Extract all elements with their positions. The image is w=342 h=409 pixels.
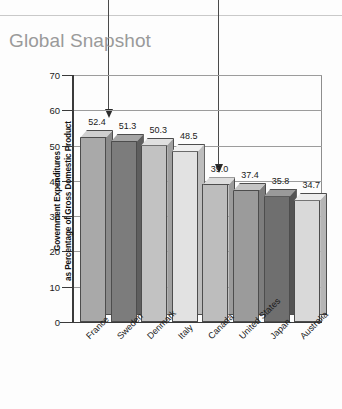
header-divider-line [0, 15, 342, 16]
bar-denmark[interactable] [141, 145, 167, 322]
bar-canada[interactable] [202, 184, 228, 322]
bar-face [294, 200, 320, 322]
plot-area [72, 75, 322, 322]
bar-france[interactable] [80, 137, 106, 322]
bar-united-states[interactable] [233, 190, 259, 322]
value-label-italy: 48.5 [180, 131, 198, 141]
category-label-italy: Italy [176, 322, 195, 341]
y-axis-title-line-2: as Percentage of Gross Domestic Product [63, 86, 74, 316]
y-axis-title-line-1: Government Expenditures [52, 86, 63, 316]
y-tick-0 [62, 322, 72, 323]
bar-face [80, 137, 106, 322]
bar-face [141, 145, 167, 322]
gridline-70 [72, 75, 322, 76]
value-label-japan: 35.8 [272, 176, 290, 186]
value-label-sweden: 51.3 [119, 121, 137, 131]
bar-side [320, 193, 327, 315]
value-label-canada: 39.0 [211, 164, 229, 174]
y-tick-label-wrap: 0 [38, 322, 60, 323]
bar-australia[interactable] [294, 200, 320, 322]
bar-italy[interactable] [172, 151, 198, 322]
bar-face [202, 184, 228, 322]
value-label-australia: 34.7 [302, 180, 320, 190]
bar-face [111, 141, 137, 322]
bar-face [172, 151, 198, 322]
bar-sweden[interactable] [111, 141, 137, 322]
gridline-60 [72, 110, 322, 111]
y-axis-title: Government Expenditures as Percentage of… [52, 86, 74, 316]
chart-page: Global Snapshot 010203040506070 52.451.3… [0, 0, 342, 409]
y-tick-label-0: 0 [38, 317, 60, 328]
value-label-france: 52.4 [88, 117, 106, 127]
value-label-united-states: 37.4 [241, 170, 259, 180]
value-label-denmark: 50.3 [149, 125, 167, 135]
y-tick-label-wrap: 70 [38, 75, 60, 76]
y-tick-70 [62, 75, 72, 76]
y-tick-label-70: 70 [38, 70, 60, 81]
chart-title: Global Snapshot [9, 30, 151, 52]
bar-face [233, 190, 259, 322]
